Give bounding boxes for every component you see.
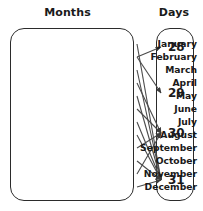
day-label: 30 (168, 127, 196, 139)
months-heading: Months (0, 6, 135, 19)
day-label: 31 (168, 174, 196, 186)
day-label: 29 (168, 87, 196, 99)
day-label: 28 (168, 41, 196, 53)
month-label: March (79, 64, 203, 75)
month-label: June (79, 103, 203, 114)
days-heading: Days (146, 6, 202, 19)
month-label: October (79, 155, 203, 166)
mapping-diagram: Months Days JanuaryFebruaryMarchAprilMay… (0, 0, 203, 211)
month-label: September (79, 142, 203, 153)
